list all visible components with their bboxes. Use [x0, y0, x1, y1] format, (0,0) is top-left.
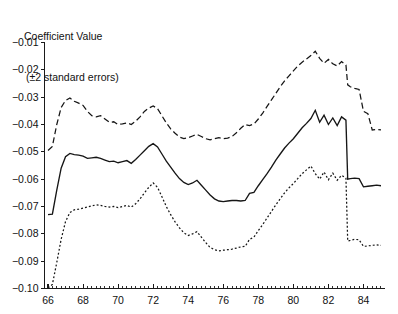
x-tick-label: 68 — [77, 294, 89, 306]
y-tick-label: −0.02 — [12, 63, 39, 75]
series-dashed — [48, 51, 381, 150]
x-tick-label: 80 — [288, 294, 300, 306]
y-tick-label: −0.08 — [12, 227, 39, 239]
x-tick-label: 76 — [217, 294, 229, 306]
x-tick-label: 72 — [147, 294, 159, 306]
series-solid — [48, 110, 381, 214]
x-tick-label: 82 — [323, 294, 335, 306]
x-tick-label: 74 — [182, 294, 194, 306]
x-tick-label: 70 — [112, 294, 124, 306]
y-tick-label: −0.10 — [12, 282, 39, 294]
x-axis-ticks — [48, 284, 381, 289]
y-tick-label: −0.04 — [12, 118, 39, 130]
x-tick-label: 66 — [42, 294, 54, 306]
y-tick-label: −0.01 — [12, 36, 39, 48]
series-dotted — [48, 166, 381, 288]
chart-figure: Coefficient Value (±2 standard errors) −… — [0, 0, 398, 314]
x-tick-label: 84 — [358, 294, 370, 306]
coefficient-time-series-plot: −0.01−0.02−0.03−0.04−0.05−0.06−0.07−0.08… — [0, 0, 398, 314]
y-axis-tick-labels: −0.01−0.02−0.03−0.04−0.05−0.06−0.07−0.08… — [12, 36, 39, 294]
x-axis-tick-labels: 66687072747678808284 — [42, 294, 369, 306]
data-series-group — [48, 51, 381, 288]
y-tick-label: −0.06 — [12, 173, 39, 185]
y-tick-label: −0.09 — [12, 255, 39, 267]
axis-frame — [45, 43, 385, 289]
y-tick-label: −0.03 — [12, 91, 39, 103]
y-tick-label: −0.07 — [12, 200, 39, 212]
y-tick-label: −0.05 — [12, 145, 39, 157]
x-tick-label: 78 — [252, 294, 264, 306]
